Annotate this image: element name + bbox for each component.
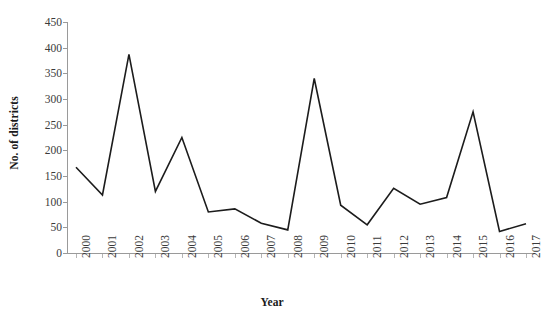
x-tick-label: 2016 xyxy=(493,258,507,294)
x-tick-label-text: 2004 xyxy=(186,235,198,258)
x-tick-label: 2009 xyxy=(307,258,321,294)
x-tick-label-text: 2007 xyxy=(265,235,277,258)
y-axis-title: No. of districts xyxy=(0,0,28,265)
y-axis-tick-labels: 050100150200250300350400450 xyxy=(28,14,65,262)
x-tick-label-text: 2000 xyxy=(80,235,92,258)
y-tick-label: 100 xyxy=(45,196,62,208)
x-tick-label: 2017 xyxy=(519,258,533,294)
y-tick-mark xyxy=(63,202,67,203)
x-tick-label: 2013 xyxy=(413,258,427,294)
x-tick-label-text: 2002 xyxy=(133,235,145,258)
x-tick-label-text: 2008 xyxy=(292,235,304,258)
x-axis-title: Year xyxy=(0,296,544,308)
y-tick-label: 350 xyxy=(45,67,62,79)
y-tick-label: 300 xyxy=(45,93,62,105)
x-tick-label-text: 2010 xyxy=(345,235,357,258)
x-tick-label: 2006 xyxy=(228,258,242,294)
plot-area xyxy=(67,18,535,258)
x-tick-label-text: 2009 xyxy=(318,235,330,258)
x-tick-label-text: 2014 xyxy=(451,235,463,258)
x-tick-label-text: 2013 xyxy=(424,235,436,258)
y-tick-mark xyxy=(63,150,67,151)
y-tick-label: 0 xyxy=(56,247,62,259)
x-tick-label-text: 2012 xyxy=(398,235,410,258)
x-tick-label: 2005 xyxy=(201,258,215,294)
y-tick-mark xyxy=(63,227,67,228)
y-tick-mark xyxy=(63,22,67,23)
x-tick-label: 2000 xyxy=(69,258,83,294)
x-tick-label: 2004 xyxy=(175,258,189,294)
y-tick-label: 50 xyxy=(51,221,63,233)
y-tick-mark xyxy=(63,48,67,49)
x-tick-label-text: 2015 xyxy=(477,235,489,258)
y-tick-label: 400 xyxy=(45,42,62,54)
x-tick-label: 2010 xyxy=(334,258,348,294)
y-tick-label: 250 xyxy=(45,119,62,131)
x-tick-label: 2008 xyxy=(281,258,295,294)
y-axis-title-text: No. of districts xyxy=(8,96,20,169)
x-tick-label-text: 2016 xyxy=(504,235,516,258)
y-tick-mark xyxy=(63,125,67,126)
x-tick-label: 2014 xyxy=(440,258,454,294)
y-tick-label: 450 xyxy=(45,16,62,28)
x-tick-label-text: 2003 xyxy=(159,235,171,258)
x-tick-label: 2012 xyxy=(387,258,401,294)
x-tick-label: 2002 xyxy=(122,258,136,294)
x-tick-label-text: 2005 xyxy=(212,235,224,258)
line-series xyxy=(67,18,535,258)
x-tick-label: 2007 xyxy=(254,258,268,294)
y-tick-mark xyxy=(63,253,67,254)
y-tick-mark xyxy=(63,73,67,74)
x-tick-label-text: 2006 xyxy=(239,235,251,258)
x-tick-label: 2015 xyxy=(466,258,480,294)
x-tick-label-text: 2001 xyxy=(106,235,118,258)
line-series-path xyxy=(76,54,526,231)
y-tick-mark xyxy=(63,176,67,177)
x-tick-label-text: 2011 xyxy=(371,235,383,258)
x-tick-label: 2003 xyxy=(148,258,162,294)
x-tick-label: 2001 xyxy=(95,258,109,294)
y-tick-label: 150 xyxy=(45,170,62,182)
x-tick-label: 2011 xyxy=(360,258,374,294)
y-tick-mark xyxy=(63,99,67,100)
x-tick-label-text: 2017 xyxy=(530,235,542,258)
chart-figure: No. of districts 05010015020025030035040… xyxy=(0,0,544,322)
y-tick-label: 200 xyxy=(45,144,62,156)
x-axis-tick-labels: 2000200120022003200420052006200720082009… xyxy=(67,258,535,298)
